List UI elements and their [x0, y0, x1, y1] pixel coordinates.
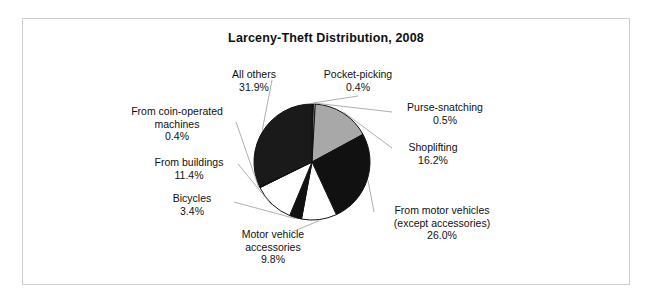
- leader-line: [313, 96, 358, 103]
- pie-label-all-others-line-1: 31.9%: [208, 81, 300, 94]
- pie-label-from-motor-vehicles-line-2: 26.0%: [372, 229, 512, 242]
- pie-label-from-motor-vehicles: From motor vehicles (except accessories)…: [372, 204, 512, 242]
- pie-label-pocket-picking-line-1: 0.4%: [310, 81, 406, 94]
- pie-label-bicycles-line-0: Bicycles: [150, 192, 234, 205]
- pie-label-shoplifting-line-1: 16.2%: [394, 154, 472, 167]
- pie-label-from-coin-operated-machines: From coin-operated machines 0.4%: [112, 105, 242, 143]
- pie-label-pocket-picking: Pocket-picking 0.4%: [310, 68, 406, 93]
- pie-label-shoplifting: Shoplifting 16.2%: [394, 141, 472, 166]
- pie-label-from-buildings-line-0: From buildings: [134, 156, 244, 169]
- pie-label-bicycles: Bicycles 3.4%: [150, 192, 234, 217]
- pie-label-motor-vehicle-accessories-line-1: accessories: [214, 241, 332, 254]
- pie-label-bicycles-line-1: 3.4%: [150, 205, 234, 218]
- pie-label-shoplifting-line-0: Shoplifting: [394, 141, 472, 154]
- pie-label-from-coin-operated-machines-line-2: 0.4%: [112, 130, 242, 143]
- pie-label-from-buildings: From buildings 11.4%: [134, 156, 244, 181]
- pie-chart-screenshot: Larceny-Theft Distribution, 2008 All oth…: [0, 0, 653, 304]
- pie-label-purse-snatching: Purse-snatching 0.5%: [392, 101, 498, 126]
- pie-label-motor-vehicle-accessories-line-0: Motor vehicle: [214, 228, 332, 241]
- pie-slices: [254, 104, 370, 220]
- pie-label-pocket-picking-line-0: Pocket-picking: [310, 68, 406, 81]
- plot-area: All others 31.9% Pocket-picking 0.4% Pur…: [0, 0, 653, 304]
- pie-label-from-coin-operated-machines-line-1: machines: [112, 118, 242, 131]
- pie-label-purse-snatching-line-1: 0.5%: [392, 114, 498, 127]
- pie-label-purse-snatching-line-0: Purse-snatching: [392, 101, 498, 114]
- pie-label-from-buildings-line-1: 11.4%: [134, 169, 244, 182]
- pie-label-from-coin-operated-machines-line-0: From coin-operated: [112, 105, 242, 118]
- pie-label-motor-vehicle-accessories: Motor vehicle accessories 9.8%: [214, 228, 332, 266]
- pie-label-all-others: All others 31.9%: [208, 68, 300, 93]
- pie-label-from-motor-vehicles-line-0: From motor vehicles: [372, 204, 512, 217]
- pie-label-motor-vehicle-accessories-line-2: 9.8%: [214, 253, 332, 266]
- pie-label-from-motor-vehicles-line-1: (except accessories): [372, 217, 512, 230]
- pie-label-all-others-line-0: All others: [208, 68, 300, 81]
